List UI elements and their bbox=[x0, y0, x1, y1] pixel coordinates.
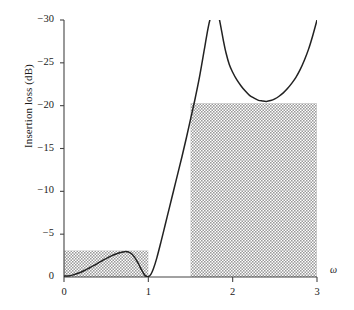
y-tick-label: 0 bbox=[24, 270, 54, 281]
y-tick-label: −30 bbox=[24, 13, 54, 24]
x-tick-label: 1 bbox=[138, 286, 158, 297]
x-tick-label: 2 bbox=[223, 286, 243, 297]
response-curve bbox=[216, 5, 317, 102]
x-tick-label: 3 bbox=[307, 286, 327, 297]
insertion-loss-plot bbox=[0, 0, 354, 310]
x-tick-label: 0 bbox=[54, 286, 74, 297]
y-tick-label: −25 bbox=[24, 56, 54, 67]
chart-figure: Insertion loss (dB) −30−25−20−15−10−50 0… bbox=[0, 0, 354, 310]
y-tick-label: −20 bbox=[24, 99, 54, 110]
x-axis-symbol: ω bbox=[330, 264, 337, 275]
passband-spec-box bbox=[64, 250, 148, 277]
stopband-spec-box bbox=[191, 103, 318, 277]
spec-mask-regions bbox=[64, 103, 317, 277]
y-tick-label: −15 bbox=[24, 142, 54, 153]
y-tick-label: −5 bbox=[24, 227, 54, 238]
y-tick-label: −10 bbox=[24, 184, 54, 195]
